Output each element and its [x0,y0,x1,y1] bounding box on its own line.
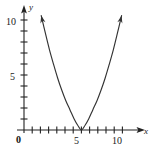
y-tick-label-10: 10 [6,17,16,27]
x-tick-label-5: 5 [74,136,79,146]
parabola-curve [41,16,121,130]
x-tick-label-10: 10 [112,136,122,146]
graph-figure: 10 5 5 10 y x 0 [0,0,153,158]
origin-label: 0 [16,135,21,145]
x-axis-label: x [144,127,148,136]
y-tick-label-5: 5 [10,72,15,82]
y-axis-label: y [29,3,33,12]
